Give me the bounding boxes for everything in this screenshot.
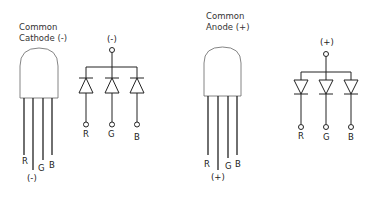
cathode-schematic: (-) R G B [79,34,144,142]
led-body-outline [20,48,58,98]
cathode-title-line1: Common [19,22,57,32]
common-terminal-icon [324,52,329,57]
pin-label-g: G [108,129,115,139]
cathode-led-component: Common Cathode (-) R (-) G B [19,22,67,183]
anode-schematic: (+) R G B [294,37,358,142]
anode-title-line1: Common [206,11,244,21]
anode-led-component: Common Anode (+) R (+) G B [204,11,249,182]
diode-g [319,72,333,130]
lead-label-common: (-) [27,173,37,183]
anode-common-label: (+) [320,37,334,47]
diode-r [294,72,308,130]
pin-label-r: R [83,129,89,139]
pin-label-b: B [134,132,140,142]
pin-label-g: G [323,132,330,142]
lead-label-r: R [204,159,210,169]
lead-label-g: G [225,161,232,171]
pin-label-b: B [348,132,354,142]
lead-label-common: (+) [211,172,225,182]
lead-label-b: B [49,160,55,170]
cathode-title-line2: Cathode (-) [19,33,67,43]
diode-b [130,67,144,127]
common-terminal-icon [110,48,115,53]
led-body-outline [204,47,241,96]
lead-label-b: B [235,159,241,169]
diode-b [344,72,358,130]
pin-label-r: R [298,131,304,141]
rgb-led-diagram: Common Cathode (-) R (-) G B (-) [0,0,376,197]
diode-g [105,67,119,127]
diode-r [79,67,93,127]
cathode-common-label: (-) [107,34,117,44]
lead-label-r: R [22,156,28,166]
lead-label-g: G [38,163,45,173]
anode-title-line2: Anode (+) [206,22,249,32]
